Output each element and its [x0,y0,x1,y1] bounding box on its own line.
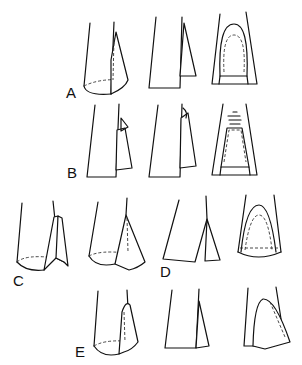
diagram-canvas [0,0,302,365]
panel-a2 [149,17,196,88]
panel-c2 [89,198,145,270]
panel-e3 [244,287,290,349]
panel-e1 [94,290,138,355]
panel-b3 [212,104,257,175]
panel-a1 [84,22,128,94]
panel-a3 [212,12,257,84]
panel-b1 [87,104,132,177]
panel-d2 [238,195,281,257]
panel-b2 [149,104,196,177]
panel-e2 [165,289,209,348]
panel-c1 [17,201,68,270]
panel-d1 [163,196,220,262]
